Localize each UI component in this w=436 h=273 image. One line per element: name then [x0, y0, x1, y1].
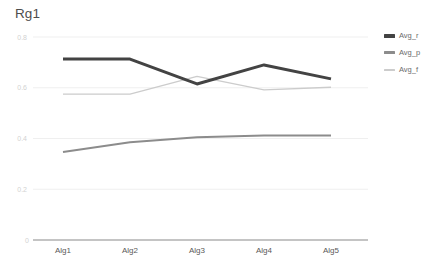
data-series-group: [63, 59, 331, 152]
legend-label-avg-r: Avg_r: [399, 31, 418, 40]
y-axis-tick-label: 0.2: [17, 186, 27, 193]
legend-swatch-avg-r: [384, 34, 395, 38]
legend-item-avg-f[interactable]: Avg_f: [384, 61, 436, 78]
line-chart: Rg1 0.80.60.40.20 Alg1Alg2Alg3Alg4Alg5 A…: [0, 0, 436, 273]
x-axis-tick-label: Alg3: [189, 246, 206, 255]
gridlines: [33, 37, 368, 240]
series-line-avg-p: [63, 135, 331, 151]
legend-swatch-avg-f: [384, 69, 395, 71]
x-axis-tick-label: Alg1: [55, 246, 72, 255]
y-axis-tick-label: 0: [25, 237, 29, 244]
y-axis-tick-label: 0.8: [17, 34, 27, 41]
chart-legend: Avg_r Avg_p Avg_f: [384, 27, 436, 78]
series-line-avg-r: [63, 59, 331, 84]
x-axis-tick-labels: Alg1Alg2Alg3Alg4Alg5: [55, 246, 340, 255]
legend-item-avg-p[interactable]: Avg_p: [384, 44, 436, 61]
legend-item-avg-r[interactable]: Avg_r: [384, 27, 436, 44]
y-axis-tick-label: 0.6: [17, 84, 27, 91]
x-axis-tick-label: Alg2: [122, 246, 139, 255]
plot-area: 0.80.60.40.20 Alg1Alg2Alg3Alg4Alg5: [0, 0, 436, 273]
x-axis-tick-label: Alg4: [256, 246, 273, 255]
legend-label-avg-p: Avg_p: [399, 48, 420, 57]
legend-label-avg-f: Avg_f: [399, 65, 418, 74]
y-axis-tick-labels: 0.80.60.40.20: [17, 34, 29, 244]
legend-swatch-avg-p: [384, 51, 395, 54]
x-axis-tick-label: Alg5: [323, 246, 340, 255]
y-axis-tick-label: 0.4: [17, 135, 27, 142]
